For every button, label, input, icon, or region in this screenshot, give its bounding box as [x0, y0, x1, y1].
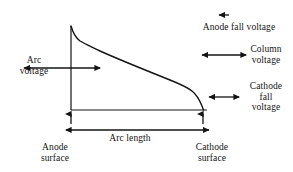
cathode-surface-label: Cathode surface [182, 142, 242, 163]
column-voltage-label: Column voltage [241, 44, 291, 65]
arc-voltage-diagram: Arc voltage Anode fall voltage Column vo… [0, 0, 293, 172]
cathode-fall-voltage-label: Cathode fall voltage [241, 81, 291, 113]
anode-surface-label: Anode surface [27, 142, 83, 163]
arc-voltage-label: Arc voltage [8, 55, 60, 76]
arc-length-label: Arc length [90, 133, 170, 144]
anode-fall-voltage-label: Anode fall voltage [189, 22, 289, 33]
